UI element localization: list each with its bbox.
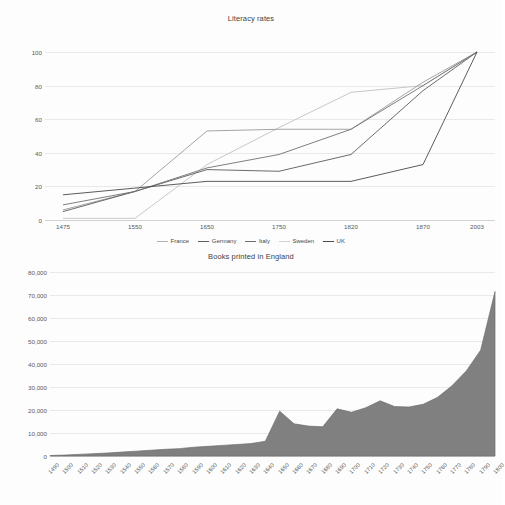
legend-item-italy[interactable]: Italy [245,238,270,244]
y-tick-label: 40,000 [28,361,47,368]
legend-swatch-icon [245,241,256,242]
x-tick-label: 1680 [320,462,333,475]
x-tick-label: 1475 [56,223,70,230]
literacy-series-svg [45,52,495,220]
y-tick-label: 0 [44,453,47,460]
y-tick-label: 0 [39,217,42,224]
x-tick-label: 1670 [305,462,318,475]
x-tick-label: 1870 [416,223,430,230]
x-tick-label: 1720 [377,462,390,475]
legend-swatch-icon [157,241,168,242]
legend-label: UK [337,238,345,244]
x-tick-label: 1620 [234,462,247,475]
x-axis-labels-literacy: 1475 1550 1650 1750 1820 1870 2003 [45,223,495,235]
y-tick-label: 20,000 [28,407,47,414]
legend-literacy: France Germany Italy Sweden UK [0,238,502,244]
x-tick-label: 1800 [492,462,505,475]
x-tick-label: 1650 [277,462,290,475]
x-tick-label: 1530 [104,462,117,475]
x-axis-labels-books: 1490150015101520153015401550156015701580… [50,459,495,499]
y-axis-labels-books: 80,000 70,000 60,000 50,000 40,000 30,00… [5,272,47,456]
x-tick-label: 1640 [262,462,275,475]
legend-label: Germany [212,238,237,244]
y-tick-label: 30,000 [28,384,47,391]
legend-label: Sweden [292,238,314,244]
y-tick-label: 80 [35,82,42,89]
y-tick-label: 60 [35,116,42,123]
series-line-uk [63,52,477,195]
x-tick-label: 1520 [90,462,103,475]
x-tick-label: 1610 [219,462,232,475]
x-tick-label: 1710 [363,462,376,475]
x-tick-label: 1770 [449,462,462,475]
plot-area-books [50,272,495,456]
legend-item-france[interactable]: France [157,238,189,244]
x-tick-label: 1750 [272,223,286,230]
x-axis-line [45,220,495,221]
x-tick-label: 1570 [162,462,175,475]
chart-title-literacy: Literacy rates [0,14,502,23]
x-tick-label: 1750 [420,462,433,475]
x-tick-label: 1560 [148,462,161,475]
legend-swatch-icon [279,241,290,242]
y-tick-label: 100 [32,49,42,56]
legend-label: Italy [259,238,270,244]
x-tick-label: 1600 [205,462,218,475]
x-tick-label: 1700 [349,462,362,475]
x-tick-label: 1500 [61,462,74,475]
legend-item-uk[interactable]: UK [323,238,345,244]
x-tick-label: 1690 [334,462,347,475]
y-tick-label: 40 [35,149,42,156]
x-tick-label: 1540 [119,462,132,475]
chart-title-books: Books printed in England [0,252,502,261]
x-tick-label: 1820 [344,223,358,230]
x-tick-label: 1650 [200,223,214,230]
legend-label: France [171,238,190,244]
literacy-rates-chart: Literacy rates 100 80 60 40 20 0 1475 15… [0,14,502,244]
x-tick-label: 1760 [435,462,448,475]
x-tick-label: 1580 [176,462,189,475]
y-tick-label: 60,000 [28,315,47,322]
plot-area-literacy [45,52,495,220]
y-tick-label: 20 [35,183,42,190]
y-axis-labels-literacy: 100 80 60 40 20 0 [10,52,42,220]
x-tick-label: 1630 [248,462,261,475]
y-tick-label: 70,000 [28,292,47,299]
series-line-france [63,52,477,210]
legend-swatch-icon [198,241,209,242]
y-tick-label: 10,000 [28,430,47,437]
x-tick-label: 1660 [291,462,304,475]
x-tick-label: 2003 [470,223,484,230]
x-tick-label: 1510 [76,462,89,475]
books-area-svg-accurate [50,272,495,456]
legend-swatch-icon [323,241,334,242]
x-tick-label: 1490 [47,462,60,475]
x-tick-label: 1550 [133,462,146,475]
x-tick-label: 1740 [406,462,419,475]
y-tick-label: 80,000 [28,269,47,276]
y-tick-label: 50,000 [28,338,47,345]
legend-item-germany[interactable]: Germany [198,238,236,244]
legend-item-sweden[interactable]: Sweden [279,238,314,244]
x-tick-label: 1550 [128,223,142,230]
area-series-books [50,292,495,456]
x-tick-label: 1790 [478,462,491,475]
series-line-germany [63,52,477,205]
x-tick-label: 1780 [463,462,476,475]
x-tick-label: 1590 [191,462,204,475]
books-printed-chart: Books printed in England 80,000 70,000 6… [0,252,502,505]
x-tick-label: 1730 [392,462,405,475]
